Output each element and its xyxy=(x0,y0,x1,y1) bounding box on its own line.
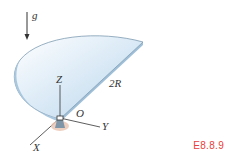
x-axis-label: X xyxy=(33,142,40,153)
gravity-label: g xyxy=(32,10,38,21)
radius-label: 2R xyxy=(109,78,121,89)
gravity-arrow-icon xyxy=(25,12,30,40)
z-axis-label: Z xyxy=(56,74,62,85)
figure-id: E8.8.9 xyxy=(193,140,224,151)
origin-label: O xyxy=(76,108,84,119)
y-axis-label: Y xyxy=(102,121,108,132)
